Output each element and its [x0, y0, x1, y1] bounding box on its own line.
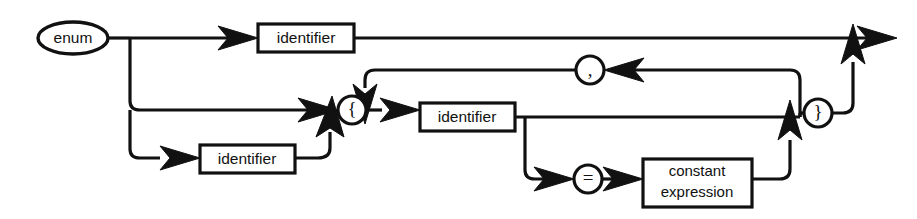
constant-expression-label-line2: expression [661, 183, 734, 200]
equals-label: = [583, 167, 594, 188]
rail-identifier-single-to-brace-open [295, 132, 330, 158]
node-brace-open: { [338, 96, 366, 124]
rail-constant-expression-return [752, 140, 790, 179]
constant-expression-label-line1: constant [669, 162, 727, 179]
node-constant-expression: constant expression [643, 159, 752, 207]
brace-close-label: } [813, 101, 822, 122]
rail-comma-loop-left [365, 70, 576, 88]
enum-label: enum [54, 29, 93, 46]
identifier-list-label: identifier [438, 108, 497, 125]
identifier-single-label: identifier [218, 150, 277, 167]
brace-open-label: { [347, 98, 356, 119]
node-brace-close: } [804, 99, 832, 127]
node-identifier-tag: identifier [258, 24, 354, 52]
enum-syntax-diagram: enum identifier identifier { identifier … [0, 0, 917, 219]
identifier-tag-label: identifier [277, 29, 336, 46]
arrowhead-to-identifier-list [380, 98, 420, 122]
node-identifier-list: identifier [420, 103, 515, 131]
rail-comma-loop-right [628, 70, 800, 117]
node-keyword-enum: enum [38, 22, 108, 54]
node-equals: = [574, 165, 602, 193]
arrowhead-to-identifier-single [160, 146, 200, 170]
comma-label: , [588, 59, 593, 80]
node-identifier-single: identifier [200, 145, 295, 173]
railroad-diagram-canvas: enum identifier identifier { identifier … [0, 0, 917, 219]
arrowhead-return-join [780, 104, 800, 136]
node-comma: , [576, 56, 604, 84]
rail-brace-close-to-main [832, 62, 853, 113]
rail-branch-to-identifier-single [130, 110, 160, 158]
